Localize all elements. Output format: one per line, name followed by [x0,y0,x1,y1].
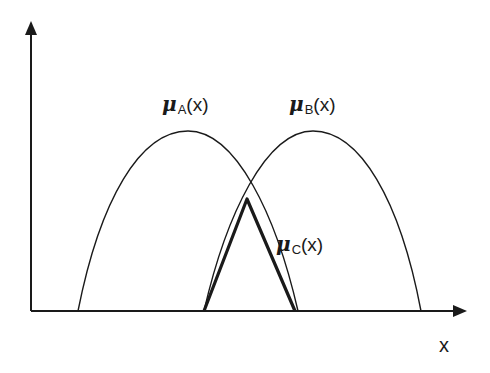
x-axis-label: x [439,334,449,357]
fuzzy-set-diagram: μA(x) μB(x) μC(x) x [0,0,490,373]
mu-symbol: μ [162,92,177,116]
argument-x: (x) [301,234,323,255]
argument-x: (x) [186,94,208,115]
subscript-c: C [292,242,301,257]
subscript-a: A [178,102,187,117]
membership-curve-a [78,131,298,311]
label-mu-c: μC(x) [276,234,323,257]
mu-symbol: μ [276,232,291,256]
x-axis-arrow-icon [453,305,467,317]
diagram-canvas [0,0,490,373]
mu-symbol: μ [289,92,304,116]
label-mu-a: μA(x) [162,94,208,117]
label-mu-b: μB(x) [289,94,335,117]
argument-x: (x) [313,94,335,115]
membership-curve-b [204,131,421,311]
y-axis-arrow-icon [25,21,37,35]
subscript-b: B [305,102,314,117]
